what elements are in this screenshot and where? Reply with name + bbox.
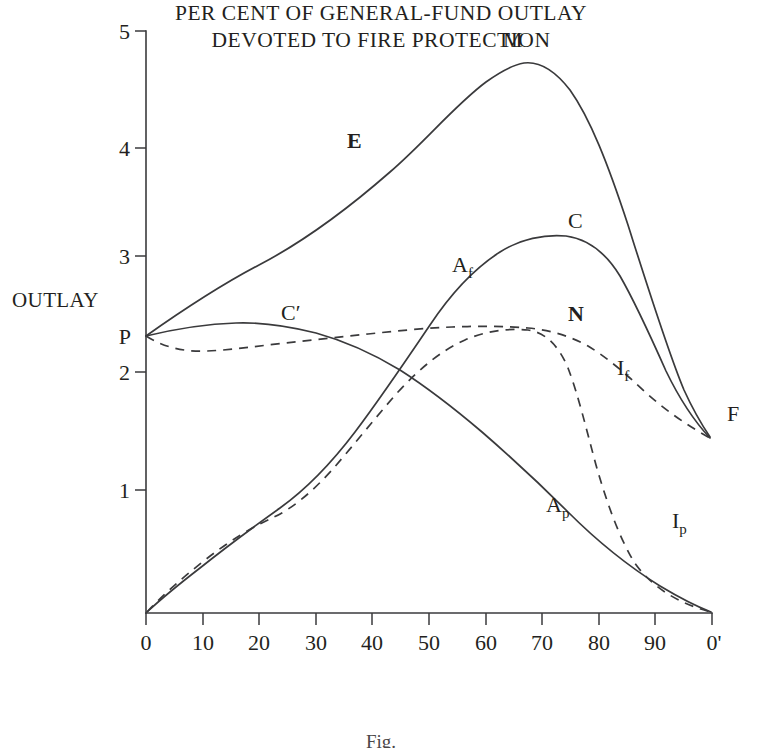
curve-label-Ap: Ap [546, 492, 569, 521]
curve-label-Ip: Ip [672, 508, 687, 537]
curve-label-F: F [727, 401, 739, 426]
x-tick-label-10: 10 [192, 630, 214, 655]
y-axis-title: OUTLAY [12, 288, 99, 312]
curve-label-C-prime: C′ [281, 300, 301, 325]
x-tick-label-70: 70 [531, 630, 553, 655]
x-axis-ticks [146, 613, 712, 625]
y-tick-label-4: 4 [119, 136, 130, 161]
curve-label-Af: Af [452, 252, 473, 281]
y-tick-label-1: 1 [119, 478, 130, 503]
figure-container: 5 4 3 2 1 P 0 10 20 30 40 50 60 70 80 [0, 0, 762, 748]
x-tick-label-60: 60 [475, 630, 497, 655]
x-tick-label-30: 30 [305, 630, 327, 655]
curve-label-If: If [617, 355, 629, 384]
y-tick-label-5: 5 [119, 19, 130, 44]
curve-Af-C [147, 236, 710, 612]
curve-label-N: N [568, 301, 584, 326]
figure-number-label: Fig. [0, 731, 762, 748]
x-tick-label-0: 0 [141, 630, 152, 655]
x-tick-label-40: 40 [361, 630, 383, 655]
y-tick-label-2: 2 [119, 360, 130, 385]
curve-label-C: C [568, 208, 583, 233]
x-tick-label-80: 80 [588, 630, 610, 655]
axis-intercept-label-p: P [119, 324, 131, 349]
x-tick-label-50: 50 [418, 630, 440, 655]
y-axis-ticks [135, 31, 146, 490]
x-tick-label-90: 90 [644, 630, 666, 655]
x-tick-label-20: 20 [248, 630, 270, 655]
y-tick-label-3: 3 [119, 244, 130, 269]
curve-C-prime-Ap [146, 323, 711, 612]
curve-label-E: E [347, 128, 362, 153]
curve-label-M: M [503, 27, 523, 52]
x-tick-label-100: 0' [707, 630, 722, 655]
chart-plot-area: 5 4 3 2 1 P 0 10 20 30 40 50 60 70 80 [0, 0, 762, 748]
